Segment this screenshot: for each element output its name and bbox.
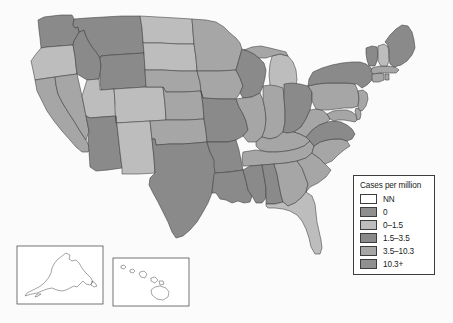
state-colorado[interactable] bbox=[114, 87, 166, 123]
state-pennsylvania[interactable] bbox=[308, 83, 359, 110]
state-rhode-island[interactable] bbox=[385, 74, 389, 80]
state-minnesota[interactable] bbox=[192, 19, 242, 71]
legend-item-nn[interactable]: NN bbox=[360, 194, 429, 204]
legend-swatch-3p5-10p3 bbox=[360, 246, 377, 256]
legend-label-3p5-10p3: 3.5–10.3 bbox=[383, 247, 414, 256]
legend-item-10p3-plus[interactable]: 10.3+ bbox=[360, 259, 429, 269]
state-texas[interactable] bbox=[149, 139, 218, 238]
legend-label-10p3-plus: 10.3+ bbox=[383, 260, 403, 269]
state-south-dakota[interactable] bbox=[143, 42, 197, 71]
legend-item-0-1p5[interactable]: 0–1.5 bbox=[360, 220, 429, 230]
legend-label-1p5-3p5: 1.5–3.5 bbox=[383, 234, 410, 243]
legend-label-nn: NN bbox=[383, 195, 395, 204]
state-wyoming[interactable] bbox=[100, 53, 146, 90]
state-vermont[interactable] bbox=[366, 46, 378, 66]
legend-swatch-0-1p5 bbox=[360, 220, 377, 230]
legend-swatch-zero bbox=[360, 207, 377, 217]
state-maryland[interactable] bbox=[327, 110, 358, 122]
state-massachusetts[interactable] bbox=[371, 66, 399, 74]
legend-swatch-nn bbox=[360, 194, 377, 204]
us-choropleth-figure: Cases per million NN 0 0–1.5 1.5–3.5 3.5… bbox=[0, 0, 453, 323]
legend-swatch-1p5-3p5 bbox=[360, 233, 377, 243]
alaska-inset bbox=[17, 246, 103, 304]
state-maine[interactable] bbox=[385, 25, 415, 67]
legend-item-zero[interactable]: 0 bbox=[360, 207, 429, 217]
legend-item-3p5-10p3[interactable]: 3.5–10.3 bbox=[360, 246, 429, 256]
state-indiana[interactable] bbox=[262, 85, 285, 139]
legend-swatch-10p3-plus bbox=[360, 259, 377, 269]
map-legend: Cases per million NN 0 0–1.5 1.5–3.5 3.5… bbox=[353, 175, 435, 275]
state-north-dakota[interactable] bbox=[140, 16, 194, 44]
state-arizona[interactable] bbox=[86, 116, 122, 171]
state-new-mexico[interactable] bbox=[116, 116, 155, 174]
state-new-hampshire[interactable] bbox=[378, 44, 389, 66]
legend-title: Cases per million bbox=[360, 181, 429, 190]
state-kansas[interactable] bbox=[163, 87, 204, 120]
state-new-jersey[interactable] bbox=[358, 90, 368, 111]
hawaii-inset bbox=[113, 258, 189, 306]
state-connecticut[interactable] bbox=[372, 73, 384, 82]
state-iowa[interactable] bbox=[197, 70, 243, 99]
legend-item-1p5-3p5[interactable]: 1.5–3.5 bbox=[360, 233, 429, 243]
state-washington[interactable] bbox=[38, 15, 79, 48]
legend-label-0-1p5: 0–1.5 bbox=[383, 221, 403, 230]
legend-label-zero: 0 bbox=[383, 208, 387, 217]
state-oklahoma[interactable] bbox=[150, 119, 207, 145]
